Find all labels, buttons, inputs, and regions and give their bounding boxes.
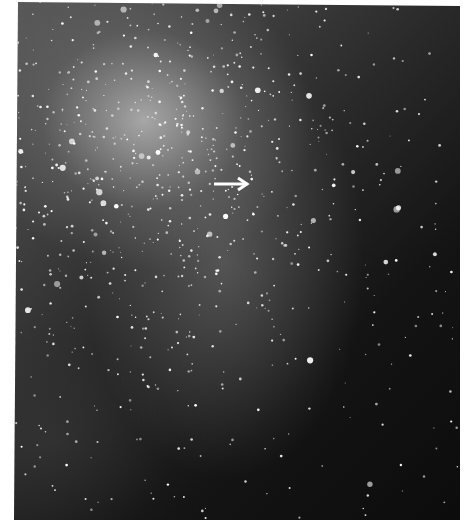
stars-layer	[14, 0, 460, 520]
arrow-icon	[212, 176, 252, 192]
star-field-photo	[14, 0, 460, 520]
